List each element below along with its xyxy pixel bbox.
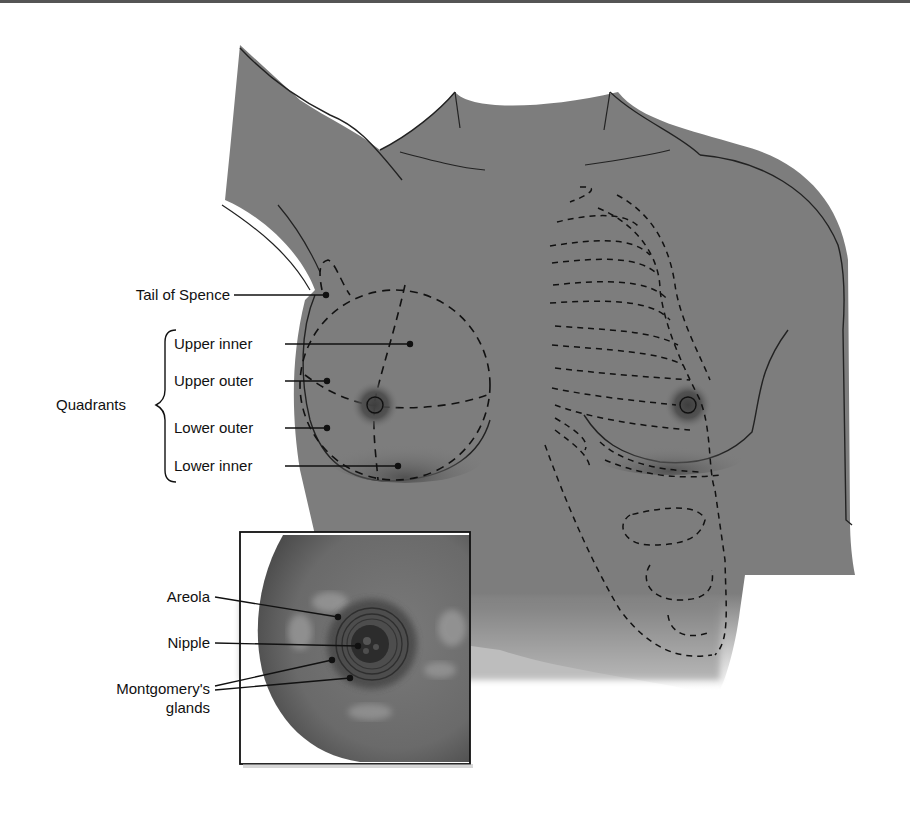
- quadrants-brace: [156, 330, 176, 482]
- label-montgomerys-glands-line1: Montgomery's: [60, 680, 210, 698]
- label-upper-outer: Upper outer: [174, 372, 253, 390]
- nipple-inset: [240, 532, 473, 768]
- label-upper-inner: Upper inner: [174, 335, 252, 353]
- label-montgomerys-glands-line2: glands: [60, 699, 210, 717]
- label-areola: Areola: [60, 588, 210, 606]
- label-lower-outer: Lower outer: [174, 419, 253, 437]
- label-nipple: Nipple: [60, 634, 210, 652]
- label-quadrants: Quadrants: [56, 396, 126, 414]
- label-lower-inner: Lower inner: [174, 457, 252, 475]
- label-tail-of-spence: Tail of Spence: [60, 286, 230, 304]
